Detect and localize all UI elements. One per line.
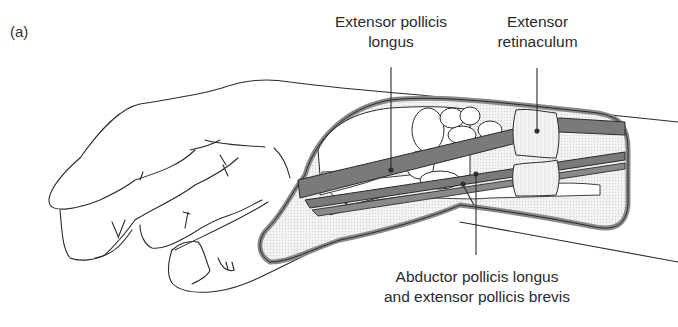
label-extensor-pollicis-longus: Extensor pollicis longus [316,12,466,52]
label-abductor-pollicis-longus-and-epb: Abductor pollicis longus and extensor po… [362,267,592,307]
epl-pointer-dot [389,168,393,172]
anatomy-figure: (a) Extensor pollicis longus Extensor re… [0,0,678,327]
apl-pointer-dot [474,172,478,176]
epb-pointer-dot [461,182,465,186]
label-extensor-retinaculum: Extensor retinaculum [485,12,590,52]
dissection-window [260,98,628,262]
retinaculum-pointer-dot [535,129,539,133]
panel-label: (a) [10,23,28,40]
